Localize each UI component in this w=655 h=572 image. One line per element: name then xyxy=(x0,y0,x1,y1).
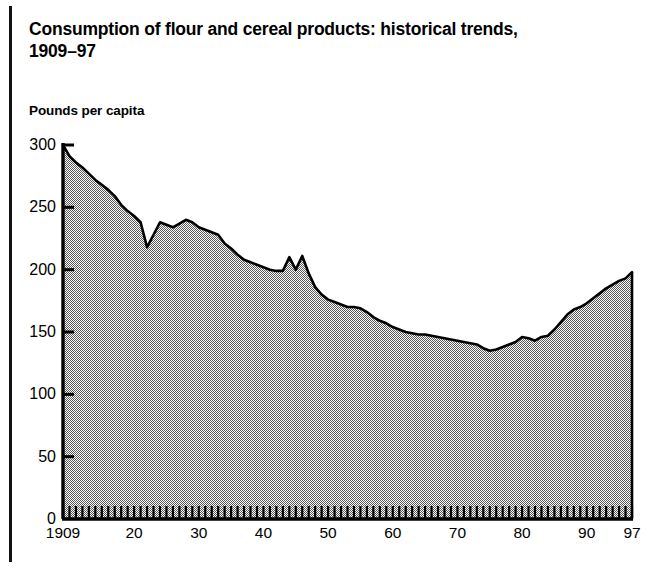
x-tick-label: 40 xyxy=(255,524,272,542)
y-tick-label: 150 xyxy=(29,323,56,341)
y-tick-label: 250 xyxy=(29,198,56,216)
y-tick-label: 50 xyxy=(38,448,56,466)
x-tick-label: 97 xyxy=(623,524,640,542)
x-tick-label: 20 xyxy=(126,524,143,542)
area-fill xyxy=(63,145,632,519)
x-tick-label: 70 xyxy=(449,524,466,542)
x-tick-label: 30 xyxy=(190,524,207,542)
y-tick-label: 100 xyxy=(29,385,56,403)
x-tick-label: 90 xyxy=(578,524,595,542)
plot-area: 0501001502002503001909203040506070809097 xyxy=(0,0,655,572)
y-tick-label: 200 xyxy=(29,261,56,279)
x-tick-label: 60 xyxy=(384,524,401,542)
chart-svg xyxy=(0,0,655,572)
y-tick-label: 300 xyxy=(29,136,56,154)
x-tick-label: 80 xyxy=(513,524,530,542)
x-tick-label: 1909 xyxy=(46,524,80,542)
x-tick-label: 50 xyxy=(319,524,336,542)
chart-figure: Consumption of flour and cereal products… xyxy=(0,0,655,572)
